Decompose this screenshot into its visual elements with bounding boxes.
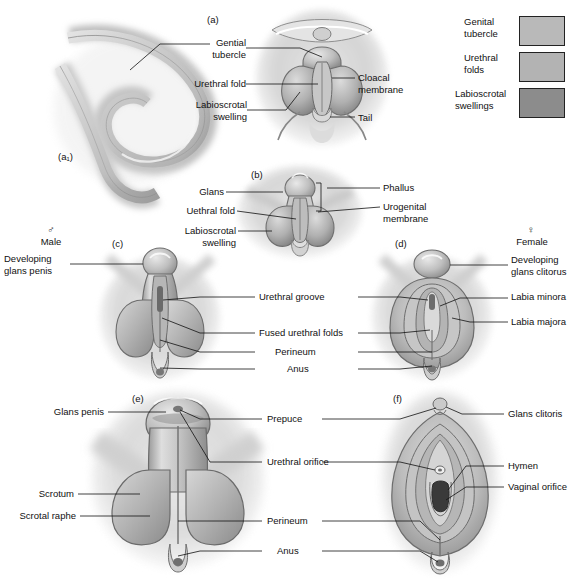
panel-id-a1: (a₁) — [58, 151, 73, 162]
legend-swatch-labioscrotal-swellings — [519, 88, 565, 118]
label-perineum-cd: Perineum — [275, 346, 339, 358]
legend-label-labioscrotal-swellings: Labioscrotal swellings — [455, 88, 506, 111]
male-label: Male — [32, 236, 70, 248]
label-glans-penis: Glans penis — [26, 406, 104, 418]
legend-label-urethral-folds: Urethral folds — [464, 52, 498, 75]
label-anus-ef: Anus — [277, 545, 317, 557]
label-labia-majora: Labia majora — [511, 316, 583, 328]
label-prepuce: Prepuce — [267, 413, 321, 425]
panel-id-b: (b) — [251, 169, 263, 180]
panel-id-e: (e) — [132, 393, 144, 404]
panel-id-c: (c) — [112, 238, 123, 249]
panel-id-f: (f) — [393, 393, 402, 404]
panel-c-illustration — [100, 248, 220, 380]
female-symbol: ♀ — [516, 224, 546, 236]
label-glans-clitoris: Glans clitoris — [508, 408, 584, 420]
label-urethral-groove: Urethral groove — [259, 291, 355, 303]
panel-id-a: (a) — [207, 14, 219, 25]
label-fused-urethral-folds: Fused urethral folds — [259, 327, 357, 339]
panel-id-d: (d) — [395, 238, 407, 249]
label-anus-cd: Anus — [287, 363, 331, 375]
figure-canvas: Genital tubercle Urethral folds Labioscr… — [0, 0, 584, 579]
label-labioscrotal-swelling-a: Labioscrotal swelling — [166, 99, 247, 122]
label-genital-tubercle: Gential tubercle — [176, 37, 246, 60]
label-tail: Tail — [358, 112, 398, 124]
label-glans-b: Glans — [176, 186, 224, 198]
label-perineum-ef: Perineum — [267, 515, 327, 527]
label-labioscrotal-swelling-b: Labioscrotal swelling — [156, 225, 236, 248]
legend-label-genital-tubercle: Genital tubercle — [464, 16, 498, 39]
label-scrotum: Scrotum — [18, 488, 74, 500]
label-cloacal-membrane: Cloacal membrane — [358, 72, 428, 95]
anatomical-artwork — [0, 0, 584, 579]
label-urogenital-membrane: Urogenital membrane — [383, 201, 457, 224]
label-urethral-fold-a: Urethral fold — [166, 78, 246, 90]
label-developing-glans-penis: Developing glans penis — [4, 253, 74, 276]
female-label: Female — [508, 236, 556, 248]
panel-d-illustration — [372, 250, 492, 380]
label-vaginal-orifice: Vaginal orifice — [508, 481, 584, 493]
label-hymen: Hymen — [508, 460, 564, 472]
label-developing-glans-clitoris: Developing glans clitorus — [511, 254, 584, 277]
label-labia-minora: Labia minora — [511, 291, 583, 303]
label-phallus: Phallus — [383, 182, 443, 194]
male-symbol: ♂ — [36, 224, 66, 236]
label-urethral-fold-b: Uethral fold — [160, 205, 235, 217]
label-scrotal-raphe: Scrotal raphe — [4, 510, 76, 522]
label-urethral-orifice: Urethral orifice — [267, 456, 357, 468]
legend-swatch-genital-tubercle — [519, 16, 565, 46]
legend-swatch-urethral-folds — [519, 52, 565, 82]
